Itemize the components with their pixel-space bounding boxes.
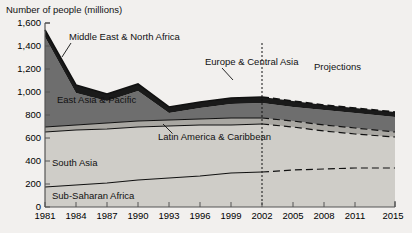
label-east-asia-pacific: East Asia & Pacific [57,94,136,105]
y-tick-600: 600 [25,132,41,143]
page-title: Number of people (millions) [6,4,122,15]
y-tick-800: 800 [25,109,41,120]
label-south-asia: South Asia [52,157,98,168]
x-tick-1999: 1999 [220,210,241,221]
label-projections: Projections [314,61,361,72]
label-europe-central-asia: Europe & Central Asia [205,56,299,67]
x-tick-1981: 1981 [34,210,55,221]
y-tick-400: 400 [25,155,41,166]
chart-svg: Number of people (millions) 1,6 [0,0,412,233]
poverty-area-chart: Number of people (millions) 1,6 [0,0,412,233]
y-tick-1400: 1,400 [17,40,41,51]
x-tick-1987: 1987 [96,210,117,221]
x-tick-2011: 2011 [345,210,365,221]
x-tick-2002: 2002 [251,210,272,221]
x-tick-2005: 2005 [282,210,303,221]
x-tick-1996: 1996 [189,210,210,221]
y-tick-1200: 1,200 [17,63,41,74]
y-tick-1600: 1,600 [17,17,41,28]
label-middle-east-north-africa: Middle East & North Africa [69,31,181,42]
y-tick-200: 200 [25,178,41,189]
x-tick-1984: 1984 [65,210,86,221]
x-tick-2008: 2008 [313,210,334,221]
label-latin-america-caribbean: Latin America & Caribbean [158,131,271,142]
label-sub-saharan-africa: Sub-Saharan Africa [52,190,135,201]
x-tick-1993: 1993 [158,210,179,221]
x-tick-1990: 1990 [127,210,148,221]
y-tick-1000: 1,000 [17,86,41,97]
x-tick-2015: 2015 [382,210,403,221]
